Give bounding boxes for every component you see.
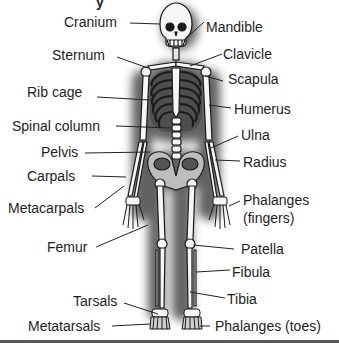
label-mandible: Mandible xyxy=(206,20,263,35)
label-phalanges-fingers-2: (fingers) xyxy=(243,211,294,226)
tibia-right xyxy=(187,248,192,308)
label-pelvis: Pelvis xyxy=(41,145,78,160)
label-femur: Femur xyxy=(47,240,87,255)
label-scapula: Scapula xyxy=(228,72,279,87)
label-phalanges-toes: Phalanges (toes) xyxy=(215,319,321,334)
label-tarsals: Tarsals xyxy=(73,294,117,309)
femur-right xyxy=(187,186,195,240)
label-phalanges-fingers-1: Phalanges xyxy=(243,193,309,208)
label-sternum: Sternum xyxy=(52,48,105,63)
tibia-left xyxy=(160,248,165,308)
title-fragment: y xyxy=(96,0,104,10)
bottom-divider xyxy=(0,340,339,343)
label-spinal-column: Spinal column xyxy=(12,119,100,134)
spine xyxy=(172,118,181,159)
label-cranium: Cranium xyxy=(64,15,117,30)
label-patella: Patella xyxy=(241,242,284,257)
label-clavicle: Clavicle xyxy=(223,47,272,62)
femur-left xyxy=(157,186,165,240)
fibula-right xyxy=(194,250,196,306)
label-tibia: Tibia xyxy=(227,292,257,307)
label-fibula: Fibula xyxy=(232,265,270,280)
foot-right xyxy=(182,309,202,329)
label-radius: Radius xyxy=(243,155,287,170)
label-metatarsals: Metatarsals xyxy=(28,319,100,334)
label-metacarpals: Metacarpals xyxy=(8,201,84,216)
fibula-left xyxy=(156,250,158,306)
sternum-bone xyxy=(172,68,180,118)
label-rib-cage: Rib cage xyxy=(27,85,82,100)
label-ulna: Ulna xyxy=(241,128,270,143)
label-humerus: Humerus xyxy=(234,102,291,117)
skeleton-diagram: y Cranium Sternum Rib cage Spinal column… xyxy=(0,0,339,347)
label-carpals: Carpals xyxy=(27,169,75,184)
